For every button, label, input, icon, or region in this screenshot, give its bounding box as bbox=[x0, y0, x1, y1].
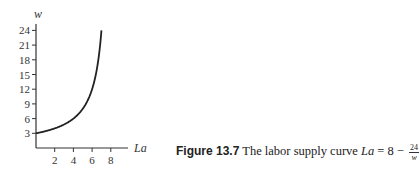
caption-equation: La = 8 − 24 w bbox=[361, 144, 419, 158]
y-axis-label: w bbox=[34, 7, 42, 21]
y-tick-label: 6 bbox=[25, 113, 31, 125]
y-tick-label: 9 bbox=[25, 98, 31, 110]
x-tick-label: 2 bbox=[52, 154, 58, 166]
y-tick-label: 18 bbox=[19, 54, 31, 66]
equation-rhs: = 8 − bbox=[377, 144, 404, 158]
labor-supply-chart: 3691215182124 2468 w La bbox=[0, 0, 170, 180]
equation-lhs: La bbox=[361, 144, 374, 158]
x-tick-label: 6 bbox=[89, 154, 95, 166]
y-tick-label: 24 bbox=[19, 24, 31, 36]
x-ticks: 2468 bbox=[52, 148, 114, 166]
y-tick-label: 12 bbox=[19, 83, 30, 95]
y-ticks: 3691215182124 bbox=[19, 24, 36, 139]
fraction-denominator: w bbox=[409, 153, 419, 162]
figure-label: Figure 13.7 bbox=[176, 144, 239, 158]
y-tick-label: 21 bbox=[19, 39, 30, 51]
equation-fraction: 24 w bbox=[409, 143, 419, 162]
x-tick-label: 8 bbox=[108, 154, 114, 166]
x-tick-label: 4 bbox=[71, 154, 77, 166]
fraction-numerator: 24 bbox=[409, 143, 419, 153]
x-axis-label: La bbox=[133, 141, 147, 155]
labor-supply-curve bbox=[36, 30, 101, 133]
caption-text: The labor supply curve bbox=[242, 144, 358, 158]
y-tick-label: 15 bbox=[19, 69, 31, 81]
figure-caption: Figure 13.7 The labor supply curve La = … bbox=[176, 143, 419, 162]
y-tick-label: 3 bbox=[25, 127, 31, 139]
